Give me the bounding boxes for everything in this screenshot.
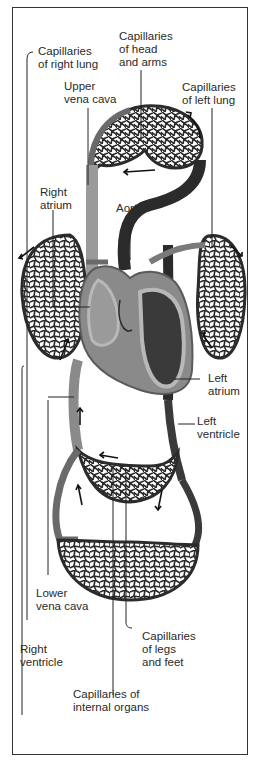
label-right-atrium: Right atrium bbox=[40, 186, 72, 212]
label-right-ventricle: Right ventricle bbox=[20, 643, 63, 669]
label-capillaries-right-lung: Capillaries of right lung bbox=[38, 45, 98, 71]
label-lower-vena-cava: Lower vena cava bbox=[36, 587, 88, 613]
heart bbox=[79, 266, 192, 393]
label-capillaries-legs-feet: Capillaries of legs and feet bbox=[142, 630, 196, 669]
label-upper-vena-cava: Upper vena cava bbox=[64, 80, 116, 106]
label-capillaries-head-arms: Capillaries of head and arms bbox=[119, 30, 173, 69]
label-capillaries-left-lung: Capillaries of left lung bbox=[182, 81, 236, 107]
internal-organs-capillaries bbox=[78, 450, 178, 502]
label-capillaries-internal-organs: Capillaries of internal organs bbox=[73, 688, 149, 714]
label-aorta: Aorta bbox=[116, 202, 144, 215]
label-left-atrium: Left atrium bbox=[208, 372, 240, 398]
lower-vena-cava-vessel bbox=[74, 360, 79, 450]
head-arms-capillaries bbox=[91, 106, 202, 172]
label-left-ventricle: Left ventricle bbox=[197, 415, 240, 441]
